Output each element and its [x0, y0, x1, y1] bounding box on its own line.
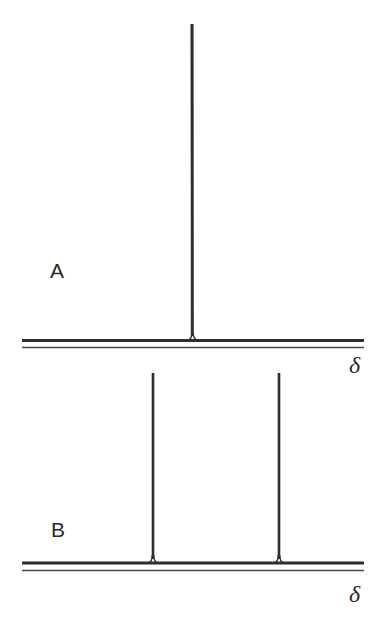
panel-label-b: B: [51, 519, 65, 540]
spectrum-panel-b: B δ: [0, 0, 388, 635]
peak-b-1-stem: [152, 373, 155, 559]
delta-axis-label-b: δ: [349, 582, 360, 606]
peak-b-2-stem: [278, 373, 281, 559]
